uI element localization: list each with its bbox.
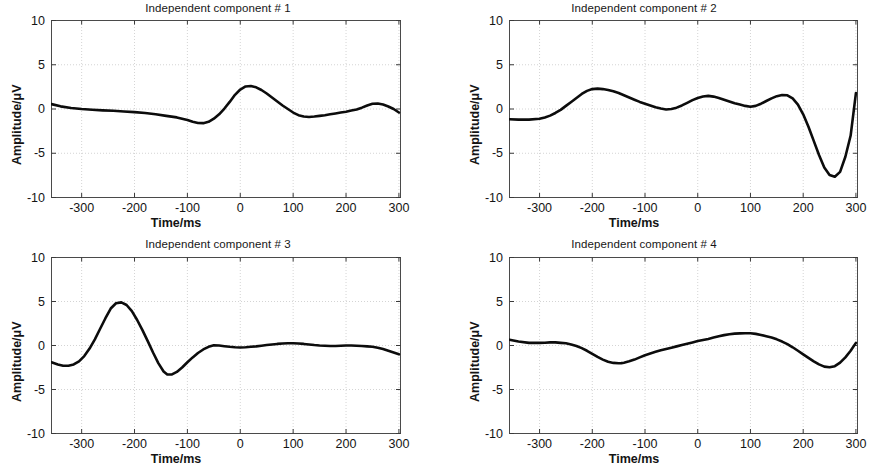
y-tick-label: 10 — [477, 14, 503, 28]
panel-title-ic1: Independent component # 1 — [0, 2, 436, 14]
x-tick-label: 300 — [845, 437, 866, 451]
x-tick-label: -200 — [580, 437, 605, 451]
x-tick-label: 0 — [694, 437, 701, 451]
x-tick-label: 300 — [388, 201, 409, 215]
y-tick-label: 10 — [19, 251, 45, 265]
plot-area-ic2 — [509, 20, 858, 198]
y-tick-label: 10 — [19, 14, 45, 28]
plot-area-ic1 — [51, 20, 401, 198]
x-tick-label: -200 — [580, 201, 605, 215]
x-axis-label-ic3: Time/ms — [151, 452, 202, 466]
x-tick-label: -100 — [632, 201, 657, 215]
x-tick-label: -200 — [122, 201, 147, 215]
x-axis-label-ic2: Time/ms — [609, 216, 660, 230]
subplot-ic2: Independent component # 2 Amplitude/μV T… — [436, 0, 872, 236]
plot-area-ic3 — [51, 257, 401, 434]
x-tick-label: 100 — [283, 437, 304, 451]
x-axis-label-ic1: Time/ms — [151, 216, 202, 230]
x-tick-label: 200 — [793, 437, 814, 451]
x-tick-label: 0 — [694, 201, 701, 215]
y-tick-label: -10 — [477, 191, 503, 205]
y-tick-label: -5 — [477, 146, 503, 160]
figure-canvas: Independent component # 1 Amplitude/μV T… — [0, 0, 872, 473]
y-tick-label: 0 — [477, 339, 503, 353]
panel-title-ic4: Independent component # 4 — [426, 238, 862, 250]
y-tick-label: 0 — [477, 102, 503, 116]
x-tick-label: 200 — [336, 437, 357, 451]
y-tick-label: 5 — [19, 295, 45, 309]
y-tick-label: -5 — [19, 146, 45, 160]
plot-area-ic4 — [509, 257, 858, 434]
x-tick-label: 100 — [740, 437, 761, 451]
y-tick-label: -10 — [19, 427, 45, 441]
y-tick-label: -5 — [19, 383, 45, 397]
y-tick-label: 0 — [19, 339, 45, 353]
y-tick-label: 5 — [19, 58, 45, 72]
x-tick-label: 100 — [740, 201, 761, 215]
x-tick-label: 200 — [793, 201, 814, 215]
y-tick-label: 5 — [477, 58, 503, 72]
subplot-ic1: Independent component # 1 Amplitude/μV T… — [0, 0, 436, 236]
x-tick-label: 0 — [237, 437, 244, 451]
x-tick-label: -100 — [175, 201, 200, 215]
y-tick-label: -5 — [477, 383, 503, 397]
x-tick-label: -300 — [69, 437, 94, 451]
x-tick-label: 300 — [388, 437, 409, 451]
x-tick-label: -300 — [69, 201, 94, 215]
x-tick-label: -300 — [527, 201, 552, 215]
y-tick-label: 0 — [19, 102, 45, 116]
y-tick-label: 10 — [477, 251, 503, 265]
y-tick-label: -10 — [19, 191, 45, 205]
subplot-ic4: Independent component # 4 Amplitude/μV T… — [436, 236, 872, 473]
x-tick-label: -100 — [632, 437, 657, 451]
x-tick-label: 200 — [336, 201, 357, 215]
subplot-ic3: Independent component # 3 Amplitude/μV T… — [0, 236, 436, 473]
panel-title-ic3: Independent component # 3 — [0, 238, 436, 250]
y-tick-label: -10 — [477, 427, 503, 441]
x-axis-label-ic4: Time/ms — [609, 452, 660, 466]
y-tick-label: 5 — [477, 295, 503, 309]
x-tick-label: 300 — [845, 201, 866, 215]
panel-title-ic2: Independent component # 2 — [426, 2, 862, 14]
x-tick-label: 100 — [283, 201, 304, 215]
x-tick-label: -300 — [527, 437, 552, 451]
x-tick-label: -200 — [122, 437, 147, 451]
x-tick-label: 0 — [237, 201, 244, 215]
x-tick-label: -100 — [175, 437, 200, 451]
